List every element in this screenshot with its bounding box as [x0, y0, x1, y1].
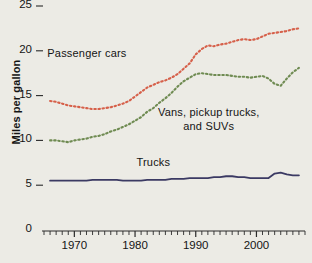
- y-tick-label-0: 0: [10, 222, 32, 234]
- x-tick-label-1980: 1980: [115, 239, 155, 251]
- y-tick-label-25: 25: [10, 0, 32, 10]
- series-line-0: [50, 28, 299, 109]
- x-tick-label-1970: 1970: [54, 239, 94, 251]
- series-label-line-1: Vans, pickup trucks,: [158, 105, 260, 119]
- series-label-1: Vans, pickup trucks,and SUVs: [158, 105, 260, 133]
- x-tick-label-2000: 2000: [236, 239, 276, 251]
- fuel-economy-chart: Miles per gallon 05101520251970198019902…: [0, 0, 312, 263]
- y-tick-label-10: 10: [10, 132, 32, 144]
- series-label-2: Trucks: [136, 156, 170, 168]
- series-label-0: Passenger cars: [47, 47, 126, 59]
- y-tick-label-20: 20: [10, 43, 32, 55]
- y-tick-label-15: 15: [10, 88, 32, 100]
- series-label-line-2: and SUVs: [158, 119, 260, 133]
- y-tick-label-5: 5: [10, 177, 32, 189]
- x-tick-label-1990: 1990: [176, 239, 216, 251]
- series-line-2: [50, 173, 299, 181]
- plot-area: [0, 0, 312, 263]
